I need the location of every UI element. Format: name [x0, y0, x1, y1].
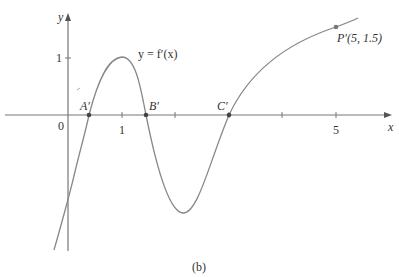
label-a-prime: A′	[79, 99, 90, 113]
stray-mark	[77, 88, 80, 90]
y-axis-label: y	[57, 10, 64, 24]
label-c-prime: C′	[217, 99, 228, 113]
point-p-prime	[334, 25, 339, 30]
curve-f-prime	[54, 18, 358, 250]
point-c-prime	[227, 113, 232, 118]
y-tick-label-1: 1	[56, 51, 62, 65]
chart: y x 1 0 1 5 y = f′(x) A′ B′ C′ P′(5, 1.5…	[0, 0, 399, 277]
point-b-prime	[144, 113, 149, 118]
label-b-prime: B′	[149, 99, 159, 113]
x-tick-label-5: 5	[333, 123, 339, 137]
x-axis-arrow-icon	[384, 112, 392, 118]
x-axis-label: x	[387, 120, 394, 134]
y-axis-arrow-icon	[65, 13, 71, 21]
figure-caption: (b)	[192, 260, 206, 274]
point-a-prime	[87, 113, 92, 118]
label-p-prime: P′(5, 1.5)	[336, 31, 382, 45]
origin-label: 0	[58, 119, 64, 133]
curve-label: y = f′(x)	[138, 47, 177, 61]
x-tick-label-1: 1	[119, 123, 125, 137]
